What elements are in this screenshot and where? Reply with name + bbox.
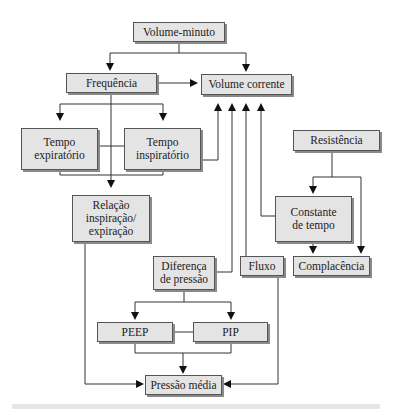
node-resistencia: Resistência bbox=[293, 130, 380, 151]
node-peep: PEEP bbox=[97, 322, 173, 342]
flowchart: Volume-minuto Frequência Volume corrente… bbox=[0, 0, 393, 415]
node-pip: PIP bbox=[193, 322, 268, 342]
node-frequencia: Frequência bbox=[66, 73, 157, 93]
node-volume-minuto: Volume-minuto bbox=[133, 22, 225, 42]
node-fluxo: Fluxo bbox=[240, 256, 284, 276]
node-complacencia: Complacência bbox=[293, 256, 370, 276]
node-volume-corrente: Volume corrente bbox=[201, 74, 292, 95]
node-pressao-media: Pressão média bbox=[145, 375, 222, 395]
node-constante-de-tempo: Constante de tempo bbox=[275, 196, 352, 242]
node-relacao-inspiracao-expiracao: Relação inspiração/ expiração bbox=[72, 195, 150, 242]
node-tempo-expiratorio: Tempo expiratório bbox=[21, 128, 98, 170]
node-diferenca-de-pressao: Diferença de pressão bbox=[153, 256, 215, 290]
node-tempo-inspiratorio: Tempo inspiratório bbox=[124, 128, 201, 170]
footer-strip bbox=[12, 404, 380, 409]
